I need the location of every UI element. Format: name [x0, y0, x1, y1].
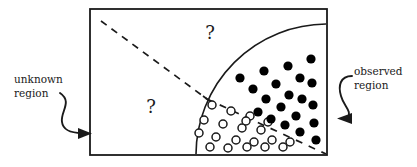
- filled-data-point: [308, 100, 317, 109]
- filled-data-point: [259, 66, 268, 75]
- open-data-point: [208, 101, 216, 109]
- filled-data-point: [306, 54, 315, 63]
- open-data-point: [268, 136, 276, 144]
- filled-data-point: [297, 94, 306, 103]
- filled-data-point: [283, 61, 292, 70]
- filled-data-point: [295, 73, 304, 82]
- observed-region-label-line2: region: [354, 79, 389, 91]
- filled-data-point: [253, 107, 262, 116]
- filled-data-point: [248, 84, 257, 93]
- open-data-point: [279, 143, 287, 151]
- filled-data-point: [284, 90, 293, 99]
- filled-data-point: [261, 94, 270, 103]
- open-data-point: [257, 126, 265, 134]
- question-mark-lower: ?: [146, 96, 156, 117]
- open-data-point: [243, 143, 251, 151]
- open-data-point: [224, 144, 232, 152]
- open-data-point: [227, 107, 235, 115]
- open-data-point: [206, 143, 214, 151]
- open-data-point: [195, 129, 203, 137]
- filled-data-point: [291, 111, 300, 120]
- question-mark-upper: ?: [205, 22, 215, 43]
- open-data-point: [219, 120, 227, 128]
- unknown-region-label-line2: region: [14, 87, 49, 99]
- open-data-point: [242, 117, 250, 125]
- filled-data-point: [295, 127, 304, 136]
- filled-data-point: [307, 78, 316, 87]
- open-data-point: [232, 136, 240, 144]
- filled-data-point: [266, 114, 275, 123]
- open-data-point: [261, 143, 269, 151]
- unknown-region-label-line1: unknown: [14, 73, 63, 85]
- diagram-canvas: ? ? unknown region observed region: [0, 0, 417, 167]
- filled-data-point: [280, 120, 289, 129]
- filled-data-point: [271, 79, 280, 88]
- open-data-point: [212, 133, 220, 141]
- open-data-point: [200, 116, 208, 124]
- filled-data-point: [235, 73, 244, 82]
- filled-data-point: [309, 118, 318, 127]
- filled-data-point: [276, 102, 285, 111]
- filled-data-point: [311, 135, 320, 144]
- observed-region-label-line1: observed: [354, 65, 403, 77]
